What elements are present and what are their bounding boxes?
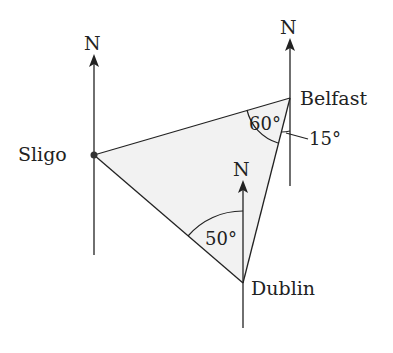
place-label-belfast: Belfast	[300, 87, 367, 109]
bearing-diagram: N N N Sligo Belfast Dublin 60° 15° 50°	[0, 0, 393, 353]
leader-15	[286, 133, 308, 139]
sligo-dot	[91, 152, 98, 159]
north-label-sligo: N	[84, 32, 101, 54]
angle-arc-15	[281, 131, 290, 132]
north-label-belfast: N	[280, 16, 297, 38]
place-label-sligo: Sligo	[18, 143, 67, 165]
angle-label-60: 60°	[249, 113, 281, 134]
angle-label-15: 15°	[309, 128, 341, 149]
place-label-dublin: Dublin	[251, 277, 315, 299]
angle-label-50: 50°	[205, 228, 237, 249]
north-label-dublin: N	[233, 158, 250, 180]
